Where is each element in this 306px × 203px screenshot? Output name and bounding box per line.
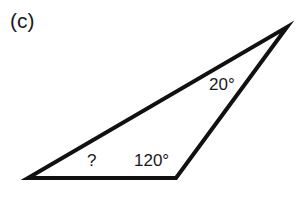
triangle-figure: (c) 20° ? 120° [0,0,306,203]
angle-label-top: 20° [209,76,235,93]
angle-label-bottom-right: 120° [134,152,169,169]
panel-label: (c) [10,10,35,31]
angle-label-left: ? [87,152,96,169]
triangle-shape [0,0,306,203]
